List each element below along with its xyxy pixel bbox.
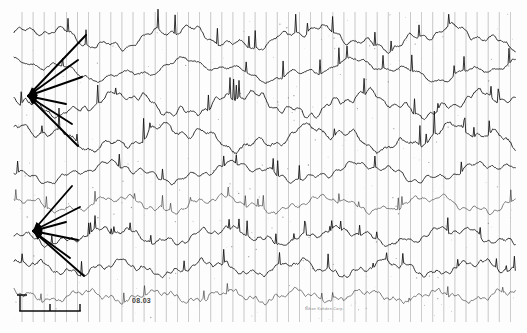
paper-speckle [405,17,406,18]
paper-speckle [399,69,400,70]
paper-speckle [238,87,239,88]
paper-speckle [271,227,272,228]
paper-speckle [339,133,340,134]
paper-speckle [25,296,26,297]
paper-speckle [121,202,122,203]
paper-speckle [116,47,117,48]
paper-speckle [497,29,498,30]
paper-speckle [175,273,176,274]
paper-speckle [491,59,492,60]
paper-speckle [355,303,356,304]
paper-speckle [287,168,288,169]
paper-speckle [486,182,487,183]
paper-speckle [429,275,430,276]
paper-speckle [286,27,287,28]
paper-speckle [376,241,377,242]
paper-speckle [148,66,149,67]
paper-speckle [415,43,416,44]
paper-speckle [68,203,69,204]
paper-speckle [256,249,257,250]
paper-speckle [406,40,407,41]
paper-speckle [220,220,221,221]
paper-speckle [151,182,152,183]
paper-speckle [336,45,337,46]
paper-speckle [436,141,437,142]
paper-speckle [466,247,467,248]
paper-speckle [214,278,215,279]
paper-speckle [227,247,228,248]
chart-paper-background [0,0,527,333]
paper-speckle [302,229,303,230]
paper-speckle [65,161,66,162]
paper-speckle [471,136,472,137]
paper-speckle [34,195,35,196]
paper-speckle [114,141,115,142]
paper-speckle [273,98,274,99]
paper-speckle [162,49,163,50]
paper-speckle [292,112,293,113]
paper-speckle [491,227,492,228]
paper-speckle [144,135,145,136]
paper-speckle [92,139,93,140]
paper-speckle [403,148,404,149]
paper-speckle [278,104,279,105]
paper-speckle [33,255,34,256]
paper-speckle [498,41,499,42]
paper-speckle [218,119,219,120]
paper-speckle [229,183,230,184]
paper-speckle [136,247,137,248]
paper-speckle [63,76,64,77]
paper-speckle [193,221,194,222]
paper-speckle [312,107,313,108]
paper-speckle [304,269,305,270]
paper-speckle [333,199,334,200]
paper-speckle [112,46,113,47]
paper-speckle [231,246,232,247]
paper-speckle [388,81,389,82]
paper-speckle [253,273,254,274]
paper-speckle [399,60,400,61]
paper-speckle [428,162,429,163]
paper-speckle [334,48,335,49]
eeg-plot: 08.03 Nihon Kohden Corp. [0,0,527,333]
paper-speckle [27,216,28,217]
paper-speckle [239,193,240,194]
paper-speckle [165,239,166,240]
paper-speckle [357,110,358,111]
paper-speckle [319,318,320,319]
paper-speckle [458,50,459,51]
paper-speckle [499,163,500,164]
paper-speckle [326,298,327,299]
eeg-chart-page: 08.03 Nihon Kohden Corp. [0,0,527,333]
paper-speckle [97,217,98,218]
paper-speckle [249,188,250,189]
paper-speckle [441,304,442,305]
paper-speckle [248,256,249,257]
paper-speckle [35,130,36,131]
paper-speckle [289,285,290,286]
paper-speckle [372,185,373,186]
paper-speckle [290,221,291,222]
paper-speckle [293,95,294,96]
paper-speckle [160,98,161,99]
paper-speckle [358,309,359,310]
paper-speckle [374,48,375,49]
paper-speckle [98,147,99,148]
paper-speckle [324,168,325,169]
paper-speckle [92,187,93,188]
paper-speckle [185,65,186,66]
paper-speckle [366,308,367,309]
paper-speckle [357,150,358,151]
paper-speckle [357,108,358,109]
paper-speckle [389,14,390,15]
paper-speckle [25,175,26,176]
paper-speckle [366,276,367,277]
paper-speckle [50,281,51,282]
paper-speckle [212,62,213,63]
paper-speckle [488,80,489,81]
paper-speckle [424,305,425,306]
paper-speckle [511,210,512,211]
paper-speckle [449,307,450,308]
paper-speckle [392,197,393,198]
paper-speckle [437,277,438,278]
